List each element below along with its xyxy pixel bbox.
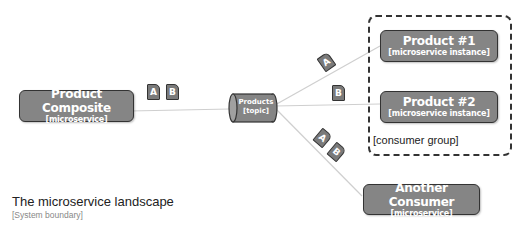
- node-title: Another Consumer: [364, 181, 479, 209]
- product-composite-node[interactable]: Product Composite [microservice]: [19, 90, 134, 122]
- line-topic-to-product2: [275, 104, 380, 106]
- node-title: Product Composite: [20, 87, 133, 115]
- message-b-icon: B: [332, 85, 345, 101]
- landscape-title: The microservice landscape: [12, 194, 174, 209]
- product1-node[interactable]: Product #1 [microservice instance]: [380, 30, 498, 62]
- node-title: Product #2: [381, 95, 497, 109]
- node-subtitle: [microservice instance]: [381, 48, 497, 58]
- another-consumer-node[interactable]: Another Consumer [microservice]: [363, 184, 480, 215]
- message-a-icon: A: [147, 84, 160, 100]
- message-b-icon: B: [166, 84, 179, 100]
- consumer-group-label: [consumer group]: [373, 134, 459, 146]
- product2-node[interactable]: Product #2 [microservice instance]: [380, 91, 498, 123]
- node-subtitle: [microservice]: [364, 209, 479, 219]
- line-composite-to-topic: [130, 109, 230, 111]
- node-subtitle: [microservice instance]: [381, 109, 497, 119]
- products-topic-node[interactable]: Products [topic]: [233, 93, 279, 123]
- node-subtitle: [microservice]: [20, 115, 133, 125]
- node-title: Product #1: [381, 34, 497, 48]
- topic-subtitle: [topic]: [233, 107, 279, 116]
- landscape-subtitle: [System boundary]: [12, 210, 83, 220]
- topic-title: Products: [233, 98, 279, 107]
- line-topic-to-another-consumer: [275, 108, 362, 196]
